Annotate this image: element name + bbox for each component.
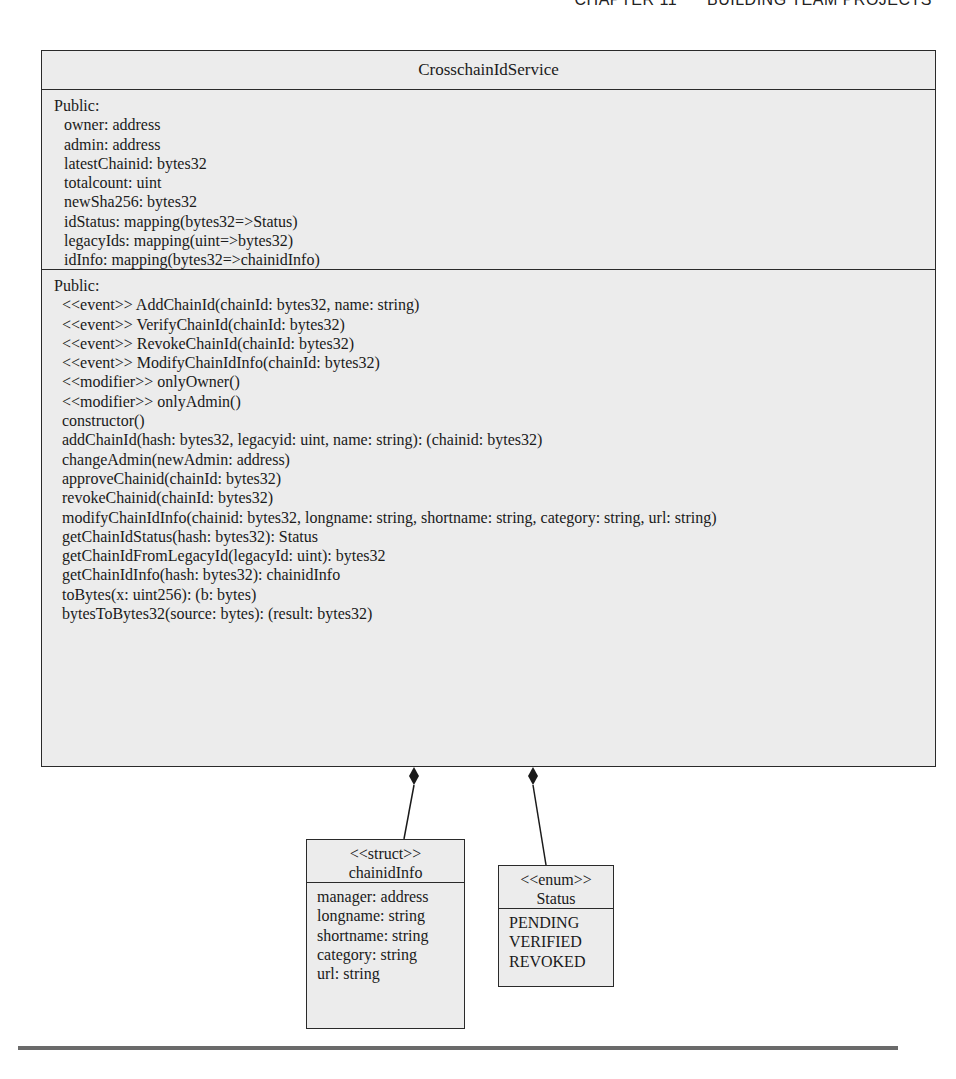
struct-chainidinfo: <<struct>> chainidInfo manager: address … <box>306 839 465 1029</box>
composition-connectors <box>0 0 956 1079</box>
enum-value: VERIFIED <box>509 932 613 951</box>
struct-field: category: string <box>317 945 464 964</box>
struct-name: chainidInfo <box>307 863 464 882</box>
struct-field: manager: address <box>317 887 464 906</box>
composition-link-enum <box>528 767 546 865</box>
enum-values-section: PENDING VERIFIED REVOKED <box>499 908 613 971</box>
struct-field: url: string <box>317 964 464 983</box>
struct-title-section: <<struct>> chainidInfo <box>307 840 464 882</box>
enum-value: REVOKED <box>509 952 613 971</box>
enum-value: PENDING <box>509 913 613 932</box>
enum-stereotype: <<enum>> <box>499 870 613 889</box>
struct-stereotype: <<struct>> <box>307 844 464 863</box>
struct-fields-section: manager: address longname: string shortn… <box>307 882 464 983</box>
enum-title-section: <<enum>> Status <box>499 866 613 908</box>
struct-field: longname: string <box>317 906 464 925</box>
page-rule-divider <box>18 1046 898 1050</box>
composition-link-struct <box>404 767 419 839</box>
composition-diamond-icon <box>528 767 538 785</box>
struct-field: shortname: string <box>317 926 464 945</box>
enum-status: <<enum>> Status PENDING VERIFIED REVOKED <box>498 865 614 987</box>
composition-diamond-icon <box>409 767 419 785</box>
enum-name: Status <box>499 889 613 908</box>
